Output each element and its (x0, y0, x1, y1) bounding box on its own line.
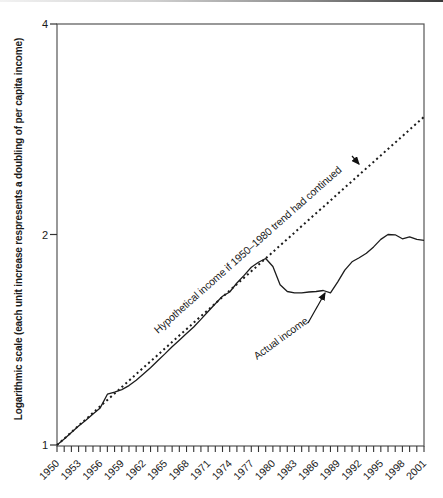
x-axis-tick-label: 1959 (101, 457, 126, 482)
figure: Logarithmic scale (each unit increase re… (0, 0, 443, 498)
x-axis-tick-label: 1965 (144, 457, 169, 482)
x-axis-tick-label: 1962 (123, 457, 148, 482)
x-axis-tick-label: 1968 (166, 457, 191, 482)
x-axis-tick-label: 1953 (58, 457, 83, 482)
x-axis-tick-label: 2001 (403, 457, 428, 482)
hypothetical-income-annotation-arrow (352, 156, 359, 164)
x-axis-tick-label: 1971 (188, 457, 213, 482)
x-axis-tick-label: 1977 (231, 457, 256, 482)
x-axis-tick-label: 1974 (209, 457, 234, 482)
actual-income-annotation: Actual income (251, 314, 310, 362)
y-axis-tick-label: 2 (42, 229, 48, 241)
hypothetical-income-line (57, 117, 424, 445)
actual-income-line (57, 235, 424, 446)
income-trend-chart: 1241950195319561959196219651968197119741… (0, 0, 443, 498)
y-axis-tick-label: 4 (42, 18, 48, 30)
y-axis-tick-label: 1 (42, 439, 48, 451)
x-axis-tick-label: 1992 (339, 457, 364, 482)
x-axis-tick-label: 1998 (382, 457, 407, 482)
x-axis-tick-label: 1986 (295, 457, 320, 482)
x-axis-tick-label: 1956 (80, 457, 105, 482)
x-axis-tick-label: 1950 (36, 457, 61, 482)
x-axis-tick-label: 1989 (317, 457, 342, 482)
plot-frame (57, 24, 424, 446)
x-axis-tick-label: 1983 (274, 457, 299, 482)
x-axis-tick-label: 1980 (252, 457, 277, 482)
actual-income-annotation-arrow (308, 293, 325, 323)
x-axis-tick-label: 1995 (360, 457, 385, 482)
